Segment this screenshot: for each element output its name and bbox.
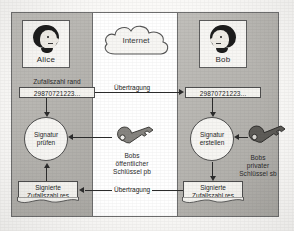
diagram-canvas: Alice Bob Internet Zufallszahl rand 2987… bbox=[0, 0, 294, 231]
public-key-label-line1: Bobs bbox=[104, 152, 160, 160]
key-icon bbox=[244, 123, 286, 151]
key-icon bbox=[112, 124, 154, 150]
operation-circle-verify: Signatur prüfen bbox=[24, 117, 68, 161]
private-key bbox=[244, 123, 286, 155]
flow-line-left-bottom bbox=[46, 166, 47, 181]
signed-result-right: Signierte Zufallszahl res bbox=[183, 181, 243, 199]
private-key-label-line1: Bobs bbox=[230, 154, 286, 162]
transmission-label-top: Übertragung bbox=[112, 84, 152, 92]
avatar-card-alice: Alice bbox=[22, 20, 70, 68]
signed-result-left-line1: Signierte bbox=[18, 184, 78, 192]
public-key-label: Bobs öffentlicher Schlüssel pb bbox=[104, 152, 160, 176]
private-key-label: Bobs privater Schlüssel sb bbox=[230, 154, 286, 178]
private-key-label-line3: Schlüssel sb bbox=[230, 170, 286, 178]
scroll-wave-edge bbox=[182, 197, 244, 205]
public-key-arrow bbox=[68, 134, 73, 140]
avatar-label-alice: Alice bbox=[23, 55, 69, 66]
public-key-line bbox=[70, 137, 112, 138]
internet-cloud: Internet bbox=[99, 22, 173, 62]
private-key-label-line2: privater bbox=[230, 162, 286, 170]
random-number-caption-left: Zufallszahl rand bbox=[20, 78, 94, 86]
person-face-icon bbox=[32, 25, 60, 53]
operation-sign-line1: Signatur bbox=[200, 131, 225, 139]
transmission-arrow-bottom bbox=[79, 187, 84, 193]
transmission-arrow-top bbox=[179, 89, 184, 95]
random-number-box-left: 29870721223... bbox=[19, 87, 95, 98]
avatar-alice bbox=[23, 21, 69, 55]
avatar-card-bob: Bob bbox=[199, 20, 247, 68]
signed-result-right-line1: Signierte bbox=[183, 184, 243, 192]
transmission-line-top bbox=[95, 92, 180, 93]
public-key-label-line3: Schlüssel pb bbox=[104, 168, 160, 176]
flow-arrow-left-bottom bbox=[44, 163, 50, 168]
operation-circle-sign: Signatur erstellen bbox=[190, 117, 234, 161]
signed-result-left: Signierte Zufallszahl res bbox=[18, 181, 78, 199]
private-key-arrow bbox=[234, 134, 239, 140]
scroll-wave-edge bbox=[17, 197, 79, 205]
random-number-box-right: 29870721223... bbox=[185, 87, 261, 98]
person-face-icon bbox=[209, 25, 237, 53]
public-key bbox=[112, 124, 154, 154]
avatar-label-bob: Bob bbox=[200, 55, 246, 66]
cloud-label: Internet bbox=[99, 36, 173, 45]
transmission-label-bottom: Übertragung bbox=[112, 186, 152, 194]
operation-verify-line2: prüfen bbox=[34, 139, 58, 147]
operation-sign-line2: erstellen bbox=[200, 139, 225, 147]
operation-verify-line1: Signatur bbox=[34, 131, 58, 139]
public-key-label-line2: öffentlicher bbox=[104, 160, 160, 168]
avatar-bob bbox=[200, 21, 246, 55]
